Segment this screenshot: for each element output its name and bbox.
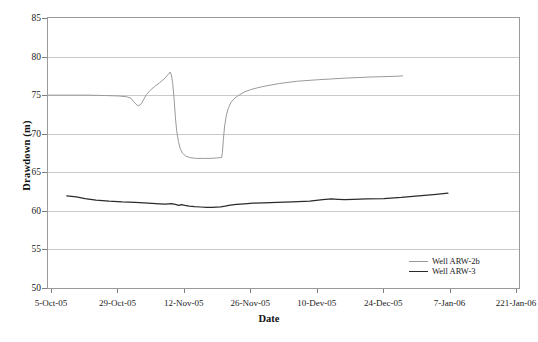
x-tick-mark-1 [117, 289, 118, 293]
x-tick-mark-3 [250, 289, 251, 293]
x-tick-label-5: 24-Dec-05 [364, 298, 402, 308]
chart-figure: Drawdown (m) 5055606570758085 Well ARW-2… [0, 0, 538, 342]
legend-swatch-well-arw-3 [409, 271, 428, 272]
x-tick-label-3: 26-Nov-05 [231, 298, 271, 308]
legend-item-well-arw-2b: Well ARW-2b [409, 256, 509, 266]
series-lines [48, 18, 519, 288]
y-tick-label-85: 85 [0, 13, 41, 23]
x-axis-title: Date [0, 313, 538, 324]
y-tick-label-65: 65 [0, 167, 41, 177]
plot-area: Well ARW-2b Well ARW-3 [47, 17, 520, 289]
x-tick-label-6: 7-Jan-06 [434, 298, 466, 308]
series-line-well-arw-3 [67, 193, 448, 207]
legend: Well ARW-2b Well ARW-3 [409, 256, 509, 276]
x-tick-label-4: 10-Dev-05 [297, 298, 336, 308]
legend-label-well-arw-2b: Well ARW-2b [432, 256, 480, 266]
x-tick-mark-5 [383, 289, 384, 293]
x-tick-mark-6 [450, 289, 451, 293]
x-tick-label-7: 221-Jan-06 [496, 298, 537, 308]
y-tick-label-75: 75 [0, 90, 41, 100]
x-tick-label-1: 29-Oct-05 [99, 298, 136, 308]
y-tick-label-70: 70 [0, 129, 41, 139]
y-tick-label-80: 80 [0, 52, 41, 62]
x-tick-mark-7 [516, 289, 517, 293]
legend-item-well-arw-3: Well ARW-3 [409, 266, 509, 276]
x-tick-label-2: 12-Nov-05 [164, 298, 204, 308]
x-tick-mark-0 [51, 289, 52, 293]
legend-label-well-arw-3: Well ARW-3 [432, 266, 475, 276]
series-line-well-arw-2b [48, 72, 403, 158]
y-tick-label-60: 60 [0, 206, 41, 216]
y-tick-label-55: 55 [0, 244, 41, 254]
x-tick-mark-4 [317, 289, 318, 293]
y-axis-ticks: 5055606570758085 [0, 0, 47, 272]
x-tick-mark-2 [184, 289, 185, 293]
x-tick-label-0: 5-Oct-05 [35, 298, 68, 308]
legend-swatch-well-arw-2b [409, 261, 428, 262]
